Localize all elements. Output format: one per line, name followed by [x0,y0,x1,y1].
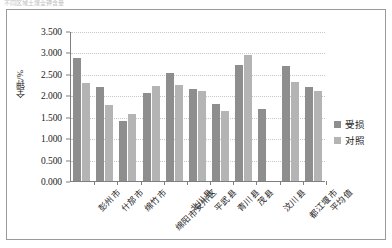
bar-group [256,32,279,181]
bar [305,87,313,181]
x-tick-mark [141,181,142,185]
y-tick-label: 1.000 [41,134,62,144]
bar [221,111,229,181]
bar-group [164,32,187,181]
bar-group [233,32,256,181]
x-tick-mark [303,181,304,185]
x-tick-label: 彭州市 [95,186,123,214]
x-tick-label: 绵竹市 [141,186,169,214]
bar-group [117,32,140,181]
bar [143,93,151,181]
legend-label: 对照 [345,133,365,147]
x-tick-label: 汶川县 [280,186,308,214]
bar-group [71,32,94,181]
x-tick-mark [187,181,188,185]
x-tick-mark [94,181,95,185]
bar-group [94,32,117,181]
bar [258,109,266,181]
legend-swatch-icon [334,137,341,144]
y-tick-label: 0.500 [41,156,62,166]
bar-group [187,32,210,181]
y-tick-label: 3.000 [41,48,62,58]
plot-area [70,32,325,182]
y-axis-labels: 0.0000.5001.0001.5002.0002.5003.0003.500 [7,32,70,182]
y-tick-label: 3.500 [41,27,62,37]
legend-item[interactable]: 对照 [334,132,386,148]
bar [235,65,243,181]
x-tick-mark [117,181,118,185]
bar [198,91,206,181]
y-tick-label: 0.000 [41,177,62,187]
bar [119,121,127,181]
legend-swatch-icon [334,121,341,128]
chart-frame: 全钾/% 0.0000.5001.0001.5002.0002.5003.000… [6,9,386,240]
bar [291,82,299,181]
x-tick-label: 什邡市 [118,186,146,214]
y-tick-label: 2.000 [41,91,62,101]
legend-label: 受损 [345,117,365,131]
bar [212,104,220,181]
x-tick-mark [210,181,211,185]
bar-group [210,32,233,181]
bar [152,86,160,181]
bar [105,105,113,181]
bar [282,66,290,181]
bar [96,87,104,181]
bar [73,58,81,181]
x-axis-labels: 彭州市什邡市绵竹市绵阳市安州区北川县平武县青川县茂县汶川县都江堰市平均值 [70,186,325,240]
x-tick-mark [326,181,327,185]
bar [82,83,90,181]
x-tick-mark [256,181,257,185]
bar [128,114,136,181]
chart-legend: 受损对照 [334,116,386,148]
bar-group [303,32,326,181]
x-tick-mark [164,181,165,185]
x-axis-ticks [71,181,325,185]
bar [314,91,322,181]
bar-group [280,32,303,181]
x-tick-mark [280,181,281,185]
bars-layer [71,32,325,181]
bar-group [141,32,164,181]
bar [166,73,174,181]
bar [175,85,183,181]
x-tick-label: 茂县 [254,186,275,207]
legend-item[interactable]: 受损 [334,116,386,132]
y-tick-label: 1.500 [41,113,62,123]
y-tick-label: 2.500 [41,70,62,80]
bar [244,55,252,181]
figure-caption: 不同区域土壤全钾含量 [4,0,124,6]
x-tick-mark [233,181,234,185]
bar [189,89,197,181]
